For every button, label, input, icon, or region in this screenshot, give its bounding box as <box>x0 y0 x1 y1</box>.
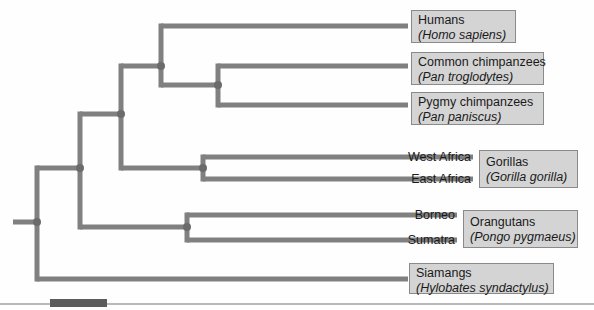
taxon-common-name: Humans <box>418 13 510 28</box>
taxon-common-name: Common chimpanzees <box>418 55 538 70</box>
tip-label-east-africa: East Africa <box>403 172 471 186</box>
taxon-latin-name: (Gorilla gorilla) <box>486 170 572 185</box>
taxon-box-siamangs: Siamangs (Hylobates syndactylus) <box>409 263 554 294</box>
taxon-latin-name: (Hylobates syndactylus) <box>416 281 548 296</box>
taxon-latin-name: (Pan paniscus) <box>418 110 538 125</box>
node-african-apes <box>117 110 125 118</box>
node-pongo-split <box>183 223 191 231</box>
bottom-color-swatch <box>50 299 107 307</box>
taxon-box-orangutans: Orangutans (Pongo pygmaeus) <box>463 210 578 248</box>
taxon-box-humans: Humans (Homo sapiens) <box>411 10 516 43</box>
taxon-common-name: Pygmy chimpanzees <box>418 95 538 110</box>
taxon-common-name: Gorillas <box>486 155 572 170</box>
taxon-box-pygmy-chimpanzees: Pygmy chimpanzees (Pan paniscus) <box>411 92 544 125</box>
node-great-apes <box>76 164 84 172</box>
node-homininae <box>157 62 165 70</box>
taxon-latin-name: (Pongo pygmaeus) <box>470 230 572 245</box>
taxon-common-name: Siamangs <box>416 266 548 281</box>
phylogenetic-tree-figure: Humans (Homo sapiens) Common chimpanzees… <box>0 0 594 310</box>
taxon-common-name: Orangutans <box>470 215 572 230</box>
node-pan <box>214 81 222 89</box>
node-gorilla-split <box>199 164 207 172</box>
taxon-latin-name: (Homo sapiens) <box>418 28 510 43</box>
taxon-box-common-chimpanzees: Common chimpanzees (Pan troglodytes) <box>411 52 544 85</box>
taxon-box-gorillas: Gorillas (Gorilla gorilla) <box>479 150 578 188</box>
node-root <box>33 218 41 226</box>
tip-label-borneo: Borneo <box>387 208 455 222</box>
taxon-latin-name: (Pan troglodytes) <box>418 70 538 85</box>
tip-label-sumatra: Sumatra <box>387 233 455 247</box>
tip-label-west-africa: West Africa <box>403 150 471 164</box>
